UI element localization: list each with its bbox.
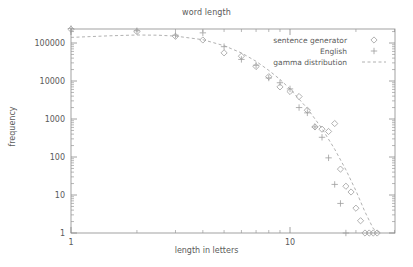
data-point-plus: [68, 25, 74, 31]
x-tick-label: 1: [68, 238, 73, 247]
data-point-diamond: [221, 50, 227, 56]
data-point-diamond: [371, 37, 377, 43]
data-point-diamond: [348, 189, 354, 195]
data-point-diamond: [337, 166, 343, 172]
y-tick-label: 10: [55, 191, 65, 200]
chart-figure: word length length in letters frequency …: [0, 0, 413, 267]
legend-label-1: English: [320, 47, 347, 56]
data-point-diamond: [332, 120, 338, 126]
data-point-plus: [296, 104, 302, 110]
plot-canvas: 110110100100010000100000sentence generat…: [0, 0, 413, 267]
data-point-diamond: [343, 183, 349, 189]
data-point-plus: [325, 155, 331, 161]
data-point-plus: [319, 134, 325, 140]
data-point-diamond: [353, 205, 359, 211]
y-tick-label: 100: [50, 153, 65, 162]
legend-label-2: gamma distribution: [273, 58, 347, 67]
data-point-diamond: [319, 126, 325, 132]
data-point-plus: [200, 30, 206, 36]
y-tick-label: 10000: [40, 77, 65, 86]
data-point-diamond: [357, 218, 363, 224]
data-point-plus: [332, 181, 338, 187]
data-point-plus: [277, 80, 283, 86]
data-point-plus: [343, 230, 349, 236]
x-tick-label: 10: [285, 238, 295, 247]
data-point-plus: [371, 48, 377, 54]
data-point-plus: [337, 200, 343, 206]
data-point-plus: [134, 28, 140, 34]
legend: sentence generatorEnglishgamma distribut…: [273, 36, 386, 67]
y-tick-label: 100000: [34, 39, 65, 48]
legend-label-0: sentence generator: [273, 36, 348, 45]
y-tick-label: 1: [60, 229, 65, 238]
y-tick-label: 1000: [45, 115, 65, 124]
data-point-plus: [312, 124, 318, 130]
data-point-diamond: [325, 128, 331, 134]
